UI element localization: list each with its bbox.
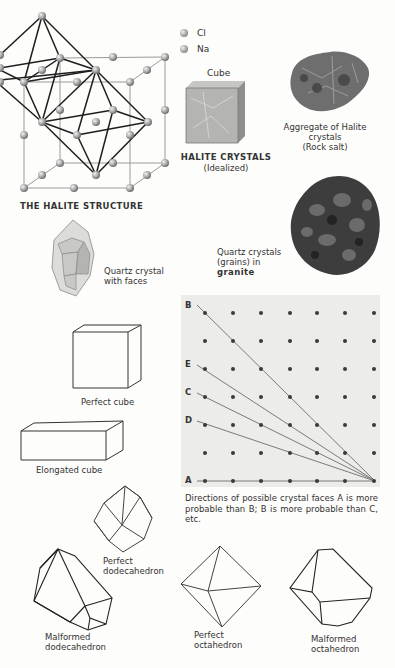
quartz-caption-1: Quartz crystal [104, 266, 164, 276]
halite-structure-title: THE HALITE STRUCTURE [20, 201, 143, 211]
granite-caption-3: granite [217, 267, 255, 277]
malformed-dodecahedron-shape [30, 546, 115, 631]
cube-label: Cube [207, 68, 230, 78]
direction-label-c: C [185, 387, 192, 397]
direction-label-d: D [185, 415, 192, 425]
rock-salt-caption-3: (Rock salt) [260, 142, 390, 152]
lattice-diagram [175, 290, 395, 490]
legend-label-cl: Cl [197, 28, 206, 38]
direction-label-b: B [185, 300, 192, 310]
malformed-octahedron-label-1: Malformed [311, 634, 356, 644]
legend-item-cl: Cl [180, 25, 209, 41]
lattice-caption: Directions of possible crystal faces A i… [185, 493, 378, 525]
malformed-dodecahedron-label-2: dodecahedron [45, 642, 106, 652]
halite-crystals-title: HALITE CRYSTALS [176, 152, 276, 162]
granite-image [287, 170, 387, 280]
elongated-cube-shape [18, 418, 128, 468]
direction-label-a: A [185, 475, 192, 485]
perfect-dodecahedron-shape [90, 483, 160, 553]
quartz-caption-2: with faces [104, 276, 147, 286]
legend-item-na: Na [180, 41, 209, 57]
perfect-cube-label: Perfect cube [81, 397, 134, 407]
granite-caption-1: Quartz crystals [217, 247, 281, 257]
malformed-dodecahedron-label-1: Malformed [45, 632, 90, 642]
perfect-octahedron-label-2: octahedron [194, 640, 242, 650]
rock-salt-image [282, 48, 372, 118]
cl-atom-icon [180, 29, 188, 37]
elongated-cube-label: Elongated cube [36, 465, 102, 475]
perfect-octahedron-shape [178, 543, 263, 628]
quartz-crystal-image [48, 218, 98, 298]
perfect-octahedron-label-1: Perfect [194, 630, 224, 640]
legend-label-na: Na [197, 44, 209, 54]
halite-crystals-subtitle: (Idealized) [176, 163, 276, 173]
na-atom-icon [180, 45, 188, 53]
granite-caption-2: (grains) in [217, 257, 260, 267]
halite-cube-image [183, 78, 253, 148]
malformed-octahedron-shape [288, 546, 378, 636]
malformed-octahedron-label-2: octahedron [311, 644, 359, 654]
halite-structure-diagram [0, 0, 180, 200]
perfect-cube-shape [70, 322, 150, 392]
rock-salt-caption-2: crystals [260, 132, 390, 142]
legend: Cl Na [180, 25, 209, 57]
direction-label-e: E [185, 359, 191, 369]
rock-salt-caption-1: Aggregate of Halite [260, 122, 390, 132]
